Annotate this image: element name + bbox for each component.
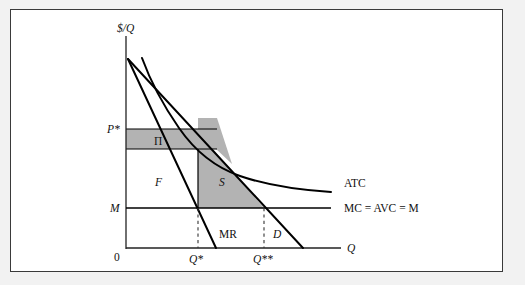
region-label-fixedcost: F (154, 176, 163, 188)
demand-label: D (272, 228, 282, 240)
figure-frame: $/Q Q 0 P* M Q* Q** ATC MC = AVC = M MR … (10, 9, 503, 272)
ytick-label-pstar: P* (106, 123, 120, 135)
monopoly-cost-curve-chart: $/Q Q 0 P* M Q* Q** ATC MC = AVC = M MR … (11, 10, 504, 273)
mc-avc-label: MC = AVC = M (344, 202, 419, 214)
origin-label: 0 (114, 251, 120, 263)
region-label-surplus: S (219, 176, 225, 188)
xtick-label-qstarstar: Q** (253, 253, 273, 265)
atc-label: ATC (344, 177, 366, 189)
y-axis-label: $/Q (117, 22, 135, 34)
xtick-label-qstar: Q* (189, 253, 203, 265)
mr-label: MR (219, 228, 237, 240)
ytick-label-m: M (109, 202, 121, 214)
x-axis-label: Q (347, 242, 356, 254)
region-label-profit: Π (154, 135, 162, 147)
